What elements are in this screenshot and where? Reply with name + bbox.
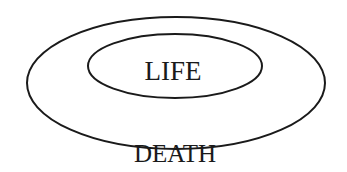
nested-ellipse-diagram: LIFE DEATH [0,0,347,172]
death-label: DEATH [134,140,216,167]
life-label: LIFE [145,56,202,86]
